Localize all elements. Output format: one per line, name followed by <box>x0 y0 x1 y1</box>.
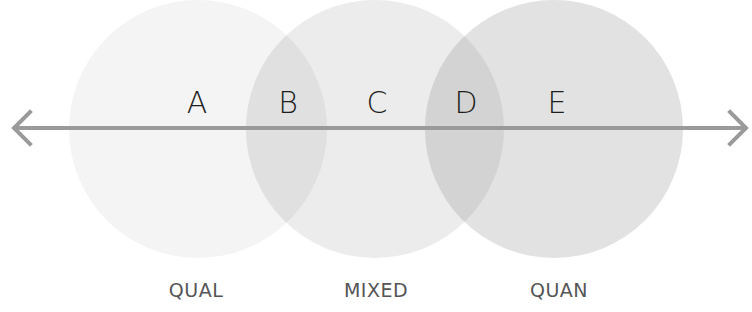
caption-qual: QUAL <box>169 279 223 301</box>
qual-mixed-quan-venn-diagram: A B C D E QUAL MIXED QUAN <box>0 0 752 312</box>
caption-quan: QUAN <box>530 279 588 301</box>
region-label-a: A <box>187 85 208 120</box>
region-label-c: C <box>367 85 388 120</box>
region-label-e: E <box>548 85 567 120</box>
region-label-b: B <box>278 85 298 120</box>
caption-mixed: MIXED <box>344 279 408 301</box>
region-label-d: D <box>454 85 477 120</box>
